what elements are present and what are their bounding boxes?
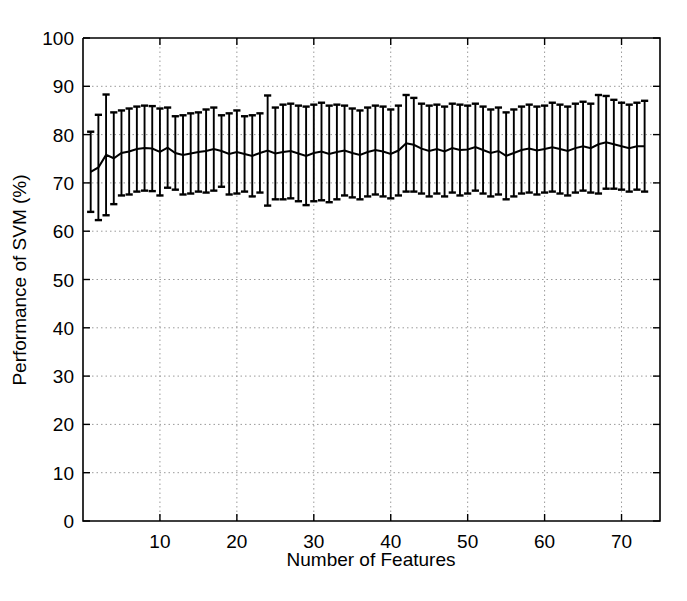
x-tick-label: 10 xyxy=(149,531,170,552)
y-tick-label: 30 xyxy=(53,366,74,387)
y-tick-label: 70 xyxy=(53,173,74,194)
y-tick-label: 20 xyxy=(53,414,74,435)
x-tick-label: 60 xyxy=(534,531,555,552)
y-axis-title: Performance of SVM (%) xyxy=(9,174,30,385)
y-tick-label: 80 xyxy=(53,125,74,146)
x-tick-label: 20 xyxy=(226,531,247,552)
x-tick-label: 70 xyxy=(611,531,632,552)
y-tick-label: 0 xyxy=(63,511,74,532)
y-tick-label: 90 xyxy=(53,76,74,97)
y-tick-label: 50 xyxy=(53,270,74,291)
y-tick-label: 60 xyxy=(53,221,74,242)
chart-figure: 010203040506070809010010203040506070 Num… xyxy=(0,0,687,601)
y-tick-label: 40 xyxy=(53,318,74,339)
x-tick-label: 50 xyxy=(457,531,478,552)
y-tick-label: 100 xyxy=(42,28,74,49)
x-axis-title: Number of Features xyxy=(287,549,456,570)
errorbar-plot: 010203040506070809010010203040506070 Num… xyxy=(0,0,687,601)
figure-background xyxy=(0,0,687,601)
y-tick-label: 10 xyxy=(53,463,74,484)
